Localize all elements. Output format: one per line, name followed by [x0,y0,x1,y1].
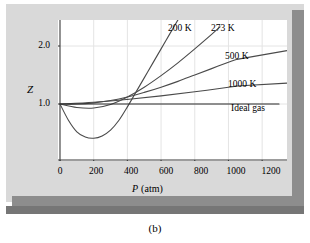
x-axis-title: P(atm) [132,184,163,194]
series-curve-1000-k [60,86,237,104]
xtick-label-1000: 1000 [219,167,253,177]
series-label-200k: 200 K [168,24,192,34]
figure-caption: (b) [0,222,310,234]
xtick-label-0: 0 [48,167,72,177]
xtick-label-400: 400 [116,167,146,177]
series-label-ideal-gas: Ideal gas [231,104,265,114]
ytick-label-2: 2.0 [24,41,50,51]
figure-divider-bar [6,206,304,214]
series-label-1000k: 1000 K [228,80,256,90]
xtick-label-600: 600 [151,167,181,177]
chart-canvas [58,20,287,161]
figure-container: 2.0 1.0 Z 0 200 400 600 800 1000 1200 P(… [0,0,310,243]
panel-shadow-right [292,10,304,206]
series-label-273k: 273 K [211,24,235,34]
ytick-label-1: 1.0 [24,99,50,109]
xtick-label-200: 200 [81,167,111,177]
xtick-label-1200: 1200 [254,167,288,177]
panel-shadow-bottom [12,196,304,206]
series-curve-200-k [60,20,178,138]
xtick-label-800: 800 [186,167,216,177]
plot-area [58,20,287,161]
series-curve-273-k [60,27,220,108]
y-axis-title: Z [27,84,33,95]
series-label-500k: 500 K [225,52,249,62]
x-axis-unit: (atm) [141,183,163,194]
x-axis-symbol: P [132,183,138,194]
